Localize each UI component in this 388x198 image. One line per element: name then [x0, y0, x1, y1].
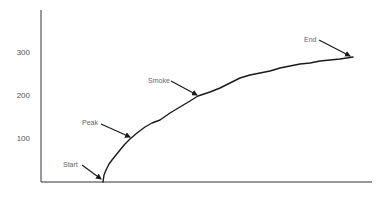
- annotation-peak-label: Peak: [82, 119, 98, 126]
- arrow-icon: [171, 81, 197, 95]
- arrow-icon: [82, 165, 101, 179]
- line-chart: 100 200 300 Start Peak Smoke End: [0, 0, 388, 198]
- arrow-icon: [319, 40, 350, 56]
- data-curve: [103, 57, 353, 182]
- arrow-icon: [101, 124, 130, 137]
- annotation-start-label: Start: [63, 161, 78, 168]
- annotation-peak: Peak: [82, 119, 130, 137]
- annotation-start: Start: [63, 161, 101, 179]
- y-tick-label-100: 100: [17, 134, 31, 143]
- y-tick-label-300: 300: [17, 48, 31, 57]
- y-tick-label-200: 200: [17, 91, 31, 100]
- annotation-end: End: [304, 36, 350, 56]
- annotation-smoke: Smoke: [148, 77, 197, 95]
- y-tick-labels: 100 200 300: [17, 48, 31, 143]
- annotations: Start Peak Smoke End: [63, 36, 350, 179]
- annotation-smoke-label: Smoke: [148, 77, 170, 84]
- annotation-end-label: End: [304, 36, 317, 43]
